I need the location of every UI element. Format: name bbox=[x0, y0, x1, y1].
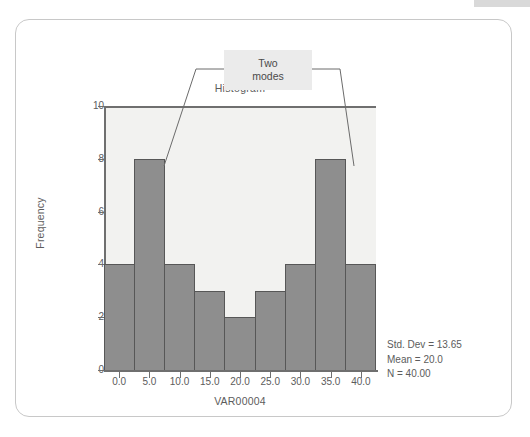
histogram-bar bbox=[224, 317, 255, 370]
two-modes-callout: Two modes bbox=[224, 50, 312, 90]
x-axis-tick-mark bbox=[361, 372, 362, 378]
x-axis-tick-mark bbox=[300, 372, 301, 378]
y-axis-label: Frequency bbox=[34, 168, 46, 278]
histogram-bar bbox=[134, 159, 165, 370]
histogram-bar bbox=[315, 159, 346, 370]
x-axis-tick-mark bbox=[331, 372, 332, 378]
callout-label-line1: Two bbox=[258, 57, 277, 70]
x-axis-label: VAR00004 bbox=[104, 395, 376, 407]
top-edge-sliver bbox=[474, 0, 530, 7]
y-axis-tick-mark bbox=[98, 370, 104, 371]
histogram-bar bbox=[194, 291, 225, 370]
bar-series bbox=[104, 106, 376, 370]
histogram-bar bbox=[255, 291, 286, 370]
x-axis-tick-mark bbox=[149, 372, 150, 378]
figure-card: Histogram Frequency 0246810 VAR00004 0.0… bbox=[15, 19, 512, 417]
x-axis-tick-mark bbox=[240, 372, 241, 378]
x-axis-tick-mark bbox=[180, 372, 181, 378]
y-axis-tick-mark bbox=[98, 106, 104, 107]
y-axis-tick-mark bbox=[98, 159, 104, 160]
n-value: N = 40.00 bbox=[387, 367, 462, 382]
histogram-bar bbox=[285, 264, 316, 370]
x-axis-tick-mark bbox=[210, 372, 211, 378]
y-axis-tick-mark bbox=[98, 264, 104, 265]
x-axis-line bbox=[104, 370, 378, 372]
histogram-chart: Histogram Frequency 0246810 VAR00004 0.0… bbox=[16, 20, 513, 418]
x-axis-tick-mark bbox=[119, 372, 120, 378]
statistics-block: Std. Dev = 13.65 Mean = 20.0 N = 40.00 bbox=[387, 338, 462, 382]
y-axis-tick-mark bbox=[98, 212, 104, 213]
histogram-bar bbox=[164, 264, 195, 370]
callout-label-line2: modes bbox=[252, 70, 284, 83]
std-dev-value: Std. Dev = 13.65 bbox=[387, 338, 462, 353]
mean-value: Mean = 20.0 bbox=[387, 353, 462, 368]
histogram-bar bbox=[345, 264, 376, 370]
histogram-bar bbox=[104, 264, 135, 370]
x-axis-tick-mark bbox=[270, 372, 271, 378]
y-axis-tick-mark bbox=[98, 317, 104, 318]
